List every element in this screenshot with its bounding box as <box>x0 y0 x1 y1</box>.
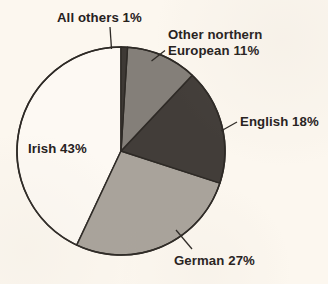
pie-label-other-northern-european: Other northernEuropean 11% <box>168 27 262 59</box>
pie-label-german: German 27% <box>174 253 255 269</box>
pie-label-other-northern-european-line2: European 11% <box>168 43 262 59</box>
pie-label-english: English 18% <box>240 114 319 130</box>
pie-label-all-others: All others 1% <box>57 10 142 26</box>
pie-chart: All others 1% Other northernEuropean 11%… <box>0 0 328 284</box>
leader-line-all-others <box>110 27 112 49</box>
pie-label-other-northern-european-line1: Other northern <box>168 27 262 42</box>
pie-label-irish: Irish 43% <box>28 141 87 157</box>
leader-line-english <box>221 122 237 131</box>
